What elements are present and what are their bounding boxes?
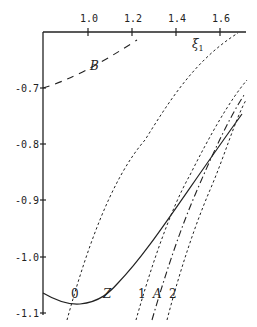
curve-1 <box>136 80 247 320</box>
y-tick-label: -0.9 <box>15 195 39 206</box>
y-tick-label: -0.7 <box>15 83 39 94</box>
y-tick-label: -1.1 <box>15 308 39 319</box>
curve-label-2: 2 <box>169 287 177 301</box>
y-tick-label: -0.8 <box>15 139 39 150</box>
curve-label-b: B <box>89 59 99 73</box>
curve-a <box>152 95 244 320</box>
phase-plot: 1.0 1.2 1.4 1.6 -0.7 -0.8 -0.9 -1.0 -1.1… <box>0 0 257 327</box>
curve-label-0: 0 <box>71 287 79 301</box>
x-tick-label: 1.6 <box>212 13 230 24</box>
curve-label-1: 1 <box>138 287 146 301</box>
curve-label-z: Z <box>102 287 112 301</box>
x-tick-label: 1.2 <box>124 13 142 24</box>
curve-2 <box>167 100 246 320</box>
curve-label-a: A <box>152 287 162 301</box>
x-tick-label: 1.0 <box>80 13 98 24</box>
x-tick-label: 1.4 <box>168 13 186 24</box>
x-axis-label: ξ1 <box>192 37 204 53</box>
curve-z <box>43 114 242 304</box>
y-tick-label: -1.0 <box>15 252 39 263</box>
curve-0 <box>67 33 238 320</box>
